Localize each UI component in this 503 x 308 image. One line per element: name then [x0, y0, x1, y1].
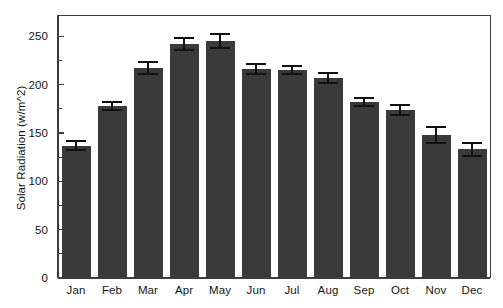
bar — [206, 41, 235, 278]
x-tick-label: Nov — [426, 284, 447, 296]
error-bar-cap-upper — [426, 126, 446, 128]
error-bar-cap-upper — [66, 140, 86, 142]
error-bar-cap-upper — [102, 101, 122, 103]
bar — [98, 106, 127, 278]
error-bar-cap-lower — [210, 47, 230, 49]
x-tick-label: Aug — [318, 284, 339, 296]
x-tick-label: Oct — [391, 284, 409, 296]
bar — [458, 149, 487, 278]
bar-chart-figure: Solar Radiation (w/m^2) 050100150200250 … — [0, 0, 503, 308]
error-bar-cap-lower — [138, 73, 158, 75]
y-tick-label: 50 — [20, 224, 48, 236]
error-bar-cap-lower — [246, 73, 266, 75]
error-bar-cap-upper — [354, 97, 374, 99]
bar — [314, 78, 343, 278]
x-tick-label: Mar — [138, 284, 158, 296]
x-tick-label: May — [209, 284, 231, 296]
error-bar-cap-upper — [174, 37, 194, 39]
bar — [242, 69, 271, 278]
error-bar-cap-upper — [462, 142, 482, 144]
bar — [350, 102, 379, 278]
bar — [278, 70, 307, 278]
y-tick-label: 0 — [20, 272, 48, 284]
error-bar-cap-upper — [318, 72, 338, 74]
error-bar-cap-upper — [246, 63, 266, 65]
error-bar-cap-lower — [462, 155, 482, 157]
y-tick-label: 100 — [20, 175, 48, 187]
x-tick-label: Jun — [247, 284, 266, 296]
x-tick-label: Jan — [67, 284, 86, 296]
error-bar-cap-lower — [174, 49, 194, 51]
bar — [422, 135, 451, 278]
error-bar-cap-lower — [66, 149, 86, 151]
y-tick-label: 250 — [20, 30, 48, 42]
x-tick-label: Feb — [102, 284, 122, 296]
x-tick-label: Sep — [354, 284, 375, 296]
error-bar-cap-lower — [282, 73, 302, 75]
y-tick-label: 150 — [20, 127, 48, 139]
x-tick-label: Dec — [462, 284, 483, 296]
bar — [170, 44, 199, 278]
error-bar-cap-lower — [390, 114, 410, 116]
error-bar-cap-lower — [318, 82, 338, 84]
error-bar-cap-upper — [282, 65, 302, 67]
error-bar-cap-upper — [210, 33, 230, 35]
error-bar-cap-upper — [390, 104, 410, 106]
y-tick-label: 200 — [20, 79, 48, 91]
bar — [386, 110, 415, 278]
error-bar-cap-lower — [102, 109, 122, 111]
error-bar-cap-upper — [138, 61, 158, 63]
error-bar-cap-lower — [426, 142, 446, 144]
bar — [62, 146, 91, 278]
error-bar-line — [219, 34, 221, 48]
bar — [134, 68, 163, 278]
x-tick-label: Apr — [175, 284, 193, 296]
error-bar-line — [471, 143, 473, 157]
error-bar-line — [435, 127, 437, 142]
error-bar-cap-lower — [354, 105, 374, 107]
x-tick-label: Jul — [284, 284, 299, 296]
